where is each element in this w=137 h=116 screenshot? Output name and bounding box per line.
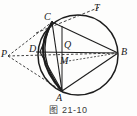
- point-label-a: A: [56, 93, 62, 103]
- point-label-c: C: [44, 12, 51, 22]
- figure-caption: 图 21-10: [0, 105, 137, 116]
- point-label-d: D: [29, 44, 36, 54]
- geometry-figure: T C B P D Q M A 图 21-10: [0, 0, 137, 116]
- secant-pa: [8, 56, 62, 91]
- chord-ab: [62, 53, 118, 91]
- point-label-t: T: [94, 3, 100, 13]
- point-label-p: P: [1, 49, 7, 59]
- point-label-b: B: [121, 47, 127, 57]
- segment-mb: [62, 53, 118, 62]
- point-label-q: Q: [64, 40, 71, 50]
- segment-db: [36, 52, 118, 53]
- geometry-canvas: [0, 0, 137, 116]
- point-label-m: M: [60, 56, 68, 66]
